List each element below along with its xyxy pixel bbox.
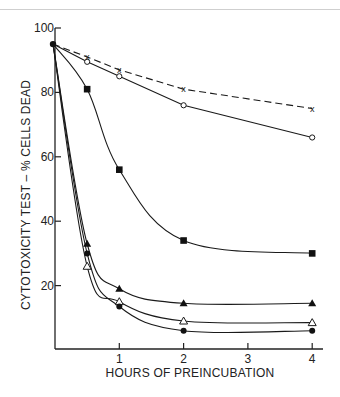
marker-start-point [50, 41, 56, 47]
x-tick-label: 1 [116, 352, 123, 366]
marker-filled-square [180, 237, 187, 244]
markers: xxxx [50, 41, 316, 334]
marker-filled-circle [309, 328, 315, 334]
x-tick-label: 3 [245, 352, 252, 366]
marker-filled-circle [116, 304, 122, 310]
marker-open-circle [310, 135, 315, 140]
series-curve-filled-triangle [53, 44, 312, 304]
marker-x: x [181, 84, 186, 94]
marker-filled-circle [181, 328, 187, 334]
marker-filled-square [116, 166, 123, 173]
y-tick-label: 40 [41, 214, 55, 228]
y-tick-label: 80 [41, 85, 55, 99]
marker-filled-triangle [115, 285, 123, 292]
marker-open-circle [181, 103, 186, 108]
marker-x: x [310, 104, 315, 114]
y-tick-label: 100 [34, 21, 54, 35]
x-axis-title: HOURS OF PREINCUBATION [106, 366, 275, 380]
y-tick-label: 20 [41, 279, 55, 293]
y-tick-label: 60 [41, 150, 55, 164]
series-curve-filled-square [53, 44, 312, 253]
x-tick-label: 2 [180, 352, 187, 366]
cytotoxicity-chart: 204060801001234 xxxx HOURS OF PREINCUBAT… [0, 0, 340, 397]
marker-filled-square [309, 250, 316, 257]
marker-open-circle [117, 74, 122, 79]
x-tick-label: 4 [309, 352, 316, 366]
y-axis-title: CYTOTOXICITY TEST – % CELLS DEAD [19, 80, 33, 310]
marker-filled-circle [84, 250, 90, 256]
marker-filled-square [84, 86, 91, 93]
marker-open-circle [85, 59, 90, 64]
